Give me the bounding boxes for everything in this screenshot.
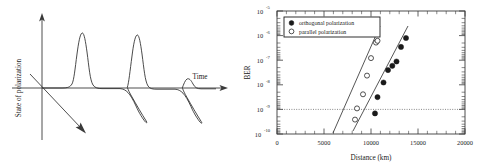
data-point	[390, 63, 395, 68]
chart-x-axis-title: Distance (km)	[351, 154, 393, 162]
y-tick-label-exponent: -6	[266, 30, 271, 35]
x-tick-label: 15000	[410, 139, 426, 146]
panel-left-waveform: State of polarization Time	[0, 0, 243, 167]
data-point	[394, 59, 399, 64]
fit-line-orthogonal	[353, 26, 408, 131]
y-tick-label-exponent: -7	[266, 55, 271, 60]
y-tick-label-mantissa: 10	[257, 57, 263, 64]
y-tick-1e-8: 10 -8	[257, 79, 465, 88]
data-point	[381, 80, 386, 85]
y-tick-label-exponent: -9	[266, 104, 271, 109]
left-y-axis-label: State of polarization	[15, 58, 23, 117]
y-tick-label-mantissa: 10	[257, 106, 263, 113]
y-tick-label-mantissa: 10	[257, 8, 263, 15]
x-tick-label: 10000	[363, 139, 379, 146]
drift-arrow-line	[30, 74, 81, 128]
y-tick-label-exponent: -8	[266, 79, 271, 84]
data-point	[403, 35, 408, 40]
data-point	[372, 111, 377, 116]
figure-root: State of polarization Time 10 -5 10	[0, 0, 486, 167]
left-x-axis-label: Time	[193, 73, 208, 81]
legend-marker-orthogonal-icon	[289, 21, 294, 26]
y-tick-label-exponent: -10	[264, 128, 271, 133]
y-tick-label-mantissa: 10	[257, 32, 263, 39]
x-tick-label: 0	[275, 139, 278, 146]
x-tick-label: 5000	[318, 139, 331, 146]
data-point	[365, 73, 370, 78]
data-point	[369, 56, 374, 61]
y-tick-1e-7: 10 -7	[257, 55, 465, 64]
legend-label-parallel: parallel polarization	[299, 29, 346, 35]
x-tick-label: 20000	[457, 139, 473, 146]
polarization-waveform-curve	[42, 33, 216, 123]
y-tick-1e-5: 10 -5	[257, 5, 465, 14]
ber-chart-svg: 10 -5 10 -6 10 -7 10	[243, 0, 486, 167]
data-point	[355, 106, 360, 111]
data-point	[375, 95, 380, 100]
chart-legend: orthogonal polarization parallel polariz…	[284, 17, 380, 37]
data-point	[361, 92, 366, 97]
chart-y-axis-title: BER	[244, 65, 252, 79]
panel-right-ber-chart: 10 -5 10 -6 10 -7 10	[243, 0, 486, 167]
fit-line-parallel	[333, 26, 380, 133]
series-orthogonal-polarization	[372, 35, 408, 116]
y-tick-label-exponent: -5	[266, 5, 271, 10]
data-point	[353, 117, 358, 122]
y-tick-1e-9: 10 -9	[257, 104, 465, 113]
x-tick-15000: 15000	[410, 11, 426, 146]
left-waveform-svg: State of polarization Time	[0, 0, 243, 167]
legend-marker-parallel-icon	[289, 29, 294, 34]
y-tick-label-mantissa: 10	[255, 131, 261, 138]
data-point	[375, 38, 380, 43]
y-axis-group	[39, 13, 45, 140]
data-point	[398, 44, 403, 49]
drift-arrow-group	[30, 74, 86, 134]
legend-label-orthogonal: orthogonal polarization	[299, 20, 354, 26]
y-tick-label-mantissa: 10	[257, 81, 263, 88]
data-point	[385, 68, 390, 73]
